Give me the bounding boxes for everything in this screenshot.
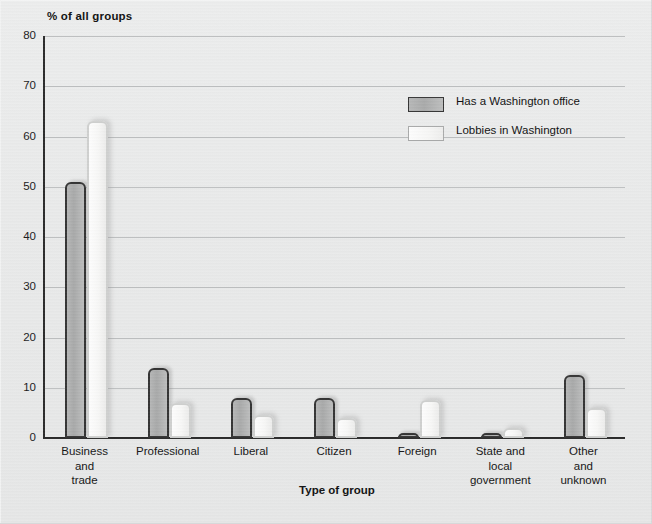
figure-border-top <box>0 0 652 1</box>
x-axis-tick-label: Citizen <box>292 444 375 459</box>
bar-lobbies-in-washington <box>586 408 607 438</box>
bar-has-washington-office <box>564 375 585 438</box>
x-axis-tick-label-line: Professional <box>126 444 209 459</box>
bar-lobbies-in-washington <box>503 428 524 438</box>
y-axis-tick-label: 60 <box>4 130 36 142</box>
legend-label: Has a Washington office <box>456 95 580 107</box>
bar-group <box>126 36 209 438</box>
x-axis-tick-label-line: Citizen <box>292 444 375 459</box>
bar-lobbies-in-washington <box>336 418 357 438</box>
x-axis-tick-label: Foreign <box>376 444 459 459</box>
y-axis-title: % of all groups <box>47 10 132 22</box>
x-axis-title: Type of group <box>0 484 652 496</box>
x-axis-tick-label-line: and <box>43 459 126 474</box>
y-axis-tick-label: 40 <box>4 230 36 242</box>
legend-label: Lobbies in Washington <box>456 124 572 136</box>
bar-has-washington-office <box>148 368 169 438</box>
bar-lobbies-in-washington <box>420 400 441 438</box>
x-axis-tick-label: Otherandunknown <box>542 444 625 488</box>
x-axis-tick-label-line: Foreign <box>376 444 459 459</box>
figure-border-left <box>0 0 1 524</box>
legend-swatch <box>408 126 444 141</box>
bar-has-washington-office <box>314 398 335 438</box>
y-axis-tick-label: 70 <box>4 79 36 91</box>
legend-swatch <box>408 97 444 112</box>
x-axis-tick-label: Liberal <box>209 444 292 459</box>
y-axis-tick-label: 20 <box>4 331 36 343</box>
x-axis-tick-label-line: Liberal <box>209 444 292 459</box>
x-axis-tick-label: Professional <box>126 444 209 459</box>
x-axis-tick-label: Businessandtrade <box>43 444 126 488</box>
bar-has-washington-office <box>231 398 252 438</box>
bar-group <box>292 36 375 438</box>
x-axis-tick-label-line: Business <box>43 444 126 459</box>
y-axis-tick-label: 50 <box>4 180 36 192</box>
y-axis-tick-label: 80 <box>4 29 36 41</box>
y-axis-tick-label: 30 <box>4 280 36 292</box>
bar-group <box>43 36 126 438</box>
bar-group <box>209 36 292 438</box>
x-axis-tick-label-line: Other <box>542 444 625 459</box>
y-axis-tick-label: 0 <box>4 431 36 443</box>
bar-has-washington-office <box>398 433 419 438</box>
x-axis-title-text: Type of group <box>299 484 375 496</box>
chart-figure: % of all groups 01020304050607080 Busine… <box>0 0 652 524</box>
bar-has-washington-office <box>65 182 86 438</box>
bar-has-washington-office <box>481 433 502 438</box>
bar-lobbies-in-washington <box>170 403 191 438</box>
x-axis-tick-label-line: State and <box>459 444 542 459</box>
x-axis-tick-label: State andlocalgovernment <box>459 444 542 488</box>
y-axis-tick-label: 10 <box>4 381 36 393</box>
x-axis-tick-label-line: local <box>459 459 542 474</box>
x-axis-tick-label-line: and <box>542 459 625 474</box>
bar-lobbies-in-washington <box>253 415 274 438</box>
bar-lobbies-in-washington <box>87 121 108 438</box>
